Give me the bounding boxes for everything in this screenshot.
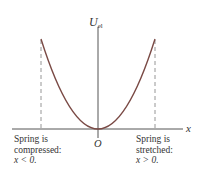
origin-label: O [94, 139, 102, 150]
right-caption: Spring is stretched: x > 0. [136, 134, 173, 166]
y-axis-subscript: el [98, 22, 103, 30]
right-caption-line-1: Spring is [136, 134, 173, 145]
left-caption: Spring is compressed: x < 0. [14, 134, 62, 166]
left-caption-line-1: Spring is [14, 134, 62, 145]
right-caption-line-2: stretched: [136, 145, 173, 156]
x-axis-label: x [186, 123, 191, 134]
left-caption-line-2: compressed: [14, 145, 62, 156]
y-axis-symbol: U [89, 15, 98, 29]
cropped-header-text [0, 0, 200, 1]
right-caption-line-3: x > 0. [136, 155, 173, 166]
left-caption-line-3: x < 0. [14, 155, 62, 166]
y-axis-label: Uel [89, 17, 103, 32]
